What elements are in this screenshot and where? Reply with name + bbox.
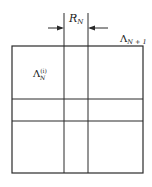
inner-region-sub: N bbox=[39, 74, 46, 81]
arrowhead-left-icon bbox=[88, 26, 95, 31]
arrowhead-right-icon bbox=[57, 26, 64, 31]
lattice-partition-diagram: RN ΛN + 1 Λ(i) N bbox=[0, 0, 152, 187]
outer-region-label: ΛN + 1 bbox=[119, 33, 147, 46]
width-label: RN bbox=[68, 12, 84, 26]
outer-box bbox=[12, 46, 143, 173]
